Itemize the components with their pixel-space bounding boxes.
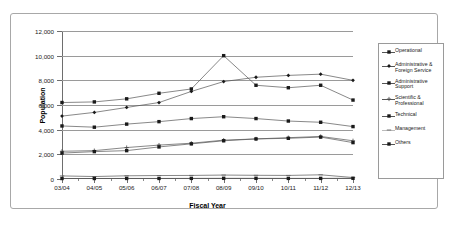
data-point-marker — [319, 121, 322, 124]
x-axis-tick-label: 11/12 — [313, 184, 328, 191]
data-point-marker — [190, 117, 193, 120]
data-point-marker — [387, 64, 391, 68]
legend-marker-icon — [382, 126, 395, 134]
data-point-marker — [387, 114, 390, 117]
legend-item-label: Technical — [395, 112, 417, 118]
x-axis-minor-tick — [272, 179, 273, 181]
data-point-marker — [387, 81, 390, 84]
data-point-marker — [93, 100, 96, 103]
legend-item-label: Administrative & Foreign Service — [395, 62, 440, 74]
x-axis-minor-tick — [175, 179, 176, 181]
data-point-marker — [157, 92, 160, 95]
series-line — [62, 56, 353, 103]
data-point-marker — [351, 177, 354, 180]
data-point-marker — [287, 137, 290, 140]
data-point-marker — [125, 177, 128, 180]
data-point-marker — [254, 117, 257, 120]
chart-series — [60, 135, 354, 154]
legend-item[interactable]: Administrative & Foreign Service — [382, 62, 440, 74]
legend-item[interactable]: Scientific & Professional — [382, 95, 440, 107]
x-axis-tick-label: 09/10 — [248, 184, 263, 191]
data-point-marker — [254, 177, 257, 180]
x-axis-minor-tick — [240, 179, 241, 181]
legend-item-label: Administrative Support — [395, 79, 440, 91]
data-point-marker — [93, 150, 96, 153]
series-line — [62, 137, 353, 153]
data-point-marker — [319, 135, 322, 138]
plot-area: 02,0004,0006,0008,00010,00012,000 03/040… — [62, 31, 353, 179]
data-point-marker — [190, 177, 193, 180]
data-point-marker — [125, 106, 129, 110]
legend-item[interactable]: Operational — [382, 48, 440, 57]
data-point-marker — [287, 177, 290, 180]
data-point-marker — [286, 74, 290, 78]
legend-item[interactable]: Technical — [382, 112, 440, 121]
data-point-marker — [157, 101, 161, 105]
x-axis-tick-label: 03/04 — [54, 184, 69, 191]
legend-item-label: Operational — [395, 48, 422, 54]
data-point-marker — [60, 177, 63, 180]
chart-frame: Population 02,0004,0006,0008,00010,00012… — [10, 13, 438, 209]
legend-item[interactable]: Others — [382, 140, 440, 149]
data-point-marker — [351, 125, 354, 128]
series-line — [62, 74, 353, 116]
y-axis-tick-label: 0 — [51, 176, 54, 183]
legend-marker-icon — [382, 49, 395, 57]
data-point-marker — [222, 177, 225, 180]
data-point-marker — [190, 142, 193, 145]
series-layer — [62, 31, 353, 179]
data-point-marker — [125, 149, 128, 152]
series-line — [62, 117, 353, 127]
series-line — [62, 136, 353, 151]
x-axis-minor-tick — [208, 179, 209, 181]
x-axis-minor-tick — [337, 179, 338, 181]
data-point-marker — [222, 139, 225, 142]
data-point-marker — [125, 122, 128, 125]
legend-marker-icon — [382, 62, 395, 70]
data-point-marker — [351, 98, 354, 101]
data-point-marker — [60, 151, 63, 154]
x-axis-title: Fiscal Year — [62, 202, 353, 209]
data-point-marker — [319, 177, 322, 180]
data-point-marker — [60, 124, 63, 127]
x-axis-minor-tick — [111, 179, 112, 181]
y-axis-tick-label: 6,000 — [39, 102, 54, 109]
data-point-marker — [93, 126, 96, 129]
data-point-marker — [319, 72, 323, 76]
y-axis-tick-label: 12,000 — [35, 28, 54, 35]
legend-marker-icon — [382, 96, 395, 104]
data-point-marker — [93, 177, 96, 180]
data-point-marker — [125, 97, 128, 100]
x-axis-minor-tick — [143, 179, 144, 181]
data-point-marker — [387, 142, 390, 145]
chart-legend: OperationalAdministrative & Foreign Serv… — [378, 43, 444, 179]
x-axis-tick-label: 07/08 — [184, 184, 199, 191]
legend-item-label: Scientific & Professional — [395, 95, 440, 107]
data-point-marker — [157, 177, 160, 180]
legend-marker-icon — [382, 113, 395, 121]
x-axis-tick-label: 04/05 — [87, 184, 102, 191]
data-point-marker — [157, 120, 160, 123]
data-point-marker — [287, 119, 290, 122]
data-point-marker — [386, 97, 390, 101]
x-axis-tick-label: 08/09 — [216, 184, 231, 191]
x-axis-minor-tick — [78, 179, 79, 181]
y-axis-tick-label: 10,000 — [35, 52, 54, 59]
data-point-marker — [222, 54, 225, 57]
x-axis-minor-tick — [305, 179, 306, 181]
chart-series — [60, 115, 354, 129]
legend-item[interactable]: Administrative Support — [382, 79, 440, 91]
legend-marker-icon — [382, 140, 395, 148]
y-axis-tick-label: 2,000 — [39, 151, 54, 158]
data-point-marker — [287, 86, 290, 89]
legend-item-label: Others — [395, 140, 411, 146]
legend-item[interactable]: Management — [382, 126, 440, 135]
x-axis-tick-label: 10/11 — [281, 184, 296, 191]
legend-marker-icon — [382, 79, 395, 87]
x-axis-tick-label: 12/13 — [345, 184, 360, 191]
y-axis-tick-label: 8,000 — [39, 77, 54, 84]
x-axis-tick-label: 05/06 — [119, 184, 134, 191]
y-axis-tick-label: 4,000 — [39, 126, 54, 133]
data-point-marker — [92, 111, 96, 115]
chart-series — [60, 72, 355, 118]
